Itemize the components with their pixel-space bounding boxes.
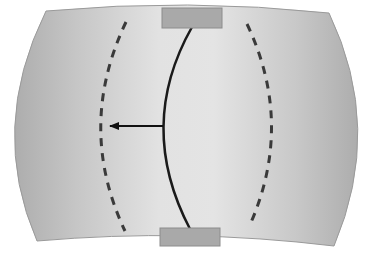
top-clamp <box>162 8 222 28</box>
bottom-clamp <box>160 228 220 246</box>
slab-body <box>15 5 358 246</box>
diagram-canvas <box>0 0 372 253</box>
membrane-diagram <box>0 0 372 253</box>
